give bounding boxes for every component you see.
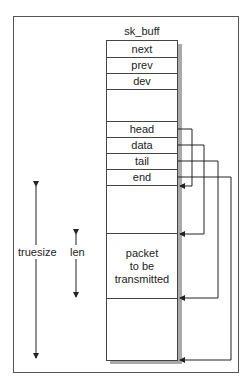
len-label: len xyxy=(70,245,85,259)
tail-pointer-arrow xyxy=(178,161,218,298)
truesize-label: truesize xyxy=(18,245,57,259)
data-pointer-arrow xyxy=(178,145,204,234)
pointer-arrows xyxy=(0,0,249,385)
